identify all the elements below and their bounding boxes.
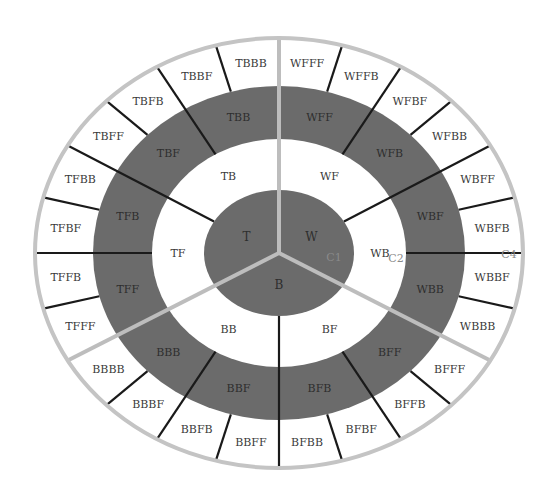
sector-label-bfbf: BFBF <box>346 423 378 436</box>
sector-label-wbff: WBFF <box>460 173 495 186</box>
sector-label-bbbf: BBBF <box>132 398 164 411</box>
sector-label-tff: TFF <box>117 283 140 296</box>
sector-label-wbfb: WBFB <box>475 222 510 235</box>
sector-label-bb: BB <box>220 323 236 336</box>
sector-label-bf: BF <box>322 323 338 336</box>
sector-label-t: T <box>243 230 251 244</box>
sector-label-wfff: WFFF <box>290 57 325 70</box>
sector-label-bbfb: BBFB <box>181 423 213 436</box>
connector-label-c1: C1 <box>326 251 341 264</box>
sector-label-bff: BFF <box>378 346 402 359</box>
sector-label-tb: TB <box>221 170 236 183</box>
sector-label-bbb: BBB <box>156 346 180 359</box>
sector-label-bbbb: BBBB <box>92 363 124 376</box>
sector-label-tbbf: TBBF <box>181 70 213 83</box>
connector-label-c2: C2 <box>388 252 403 265</box>
sector-label-bfff: BFFF <box>434 363 465 376</box>
sector-label-tbf: TBF <box>157 147 180 160</box>
sector-label-tbbb: TBBB <box>235 57 267 70</box>
sector-label-wb: WB <box>370 247 389 260</box>
sector-label-tfbb: TFBB <box>65 173 96 186</box>
sector-label-wbbf: WBBF <box>475 271 510 284</box>
sector-label-bffb: BFFB <box>394 398 425 411</box>
sector-label-tbb: TBB <box>227 111 251 124</box>
sector-label-wff: WFF <box>306 111 333 124</box>
connector-label-c4: C4 <box>501 248 516 261</box>
sector-label-wfb: WFB <box>376 147 403 160</box>
sector-label-tfb: TFB <box>116 210 139 223</box>
sector-label-bbff: BBFF <box>235 436 267 449</box>
sector-label-wf: WF <box>320 170 339 183</box>
sector-label-bfb: BFB <box>308 382 332 395</box>
sector-label-wfbb: WFBB <box>432 130 467 143</box>
sector-label-w: W <box>305 230 318 244</box>
sector-label-wbbb: WBBB <box>460 320 496 333</box>
sector-label-tfbf: TFBF <box>50 222 81 235</box>
sector-label-wfbf: WFBF <box>393 95 428 108</box>
sector-label-wbf: WBF <box>417 210 444 223</box>
sector-label-bfbb: BFBB <box>291 436 323 449</box>
sector-label-tffb: TFFB <box>50 271 81 284</box>
sector-label-wffb: WFFB <box>344 70 379 83</box>
sector-label-tbff: TBFF <box>93 130 124 143</box>
sector-label-bbf: BBF <box>227 382 251 395</box>
sector-label-tf: TF <box>171 247 186 260</box>
nested-sector-diagram: TWBTBTFWFWBBBBFTBBTBFTFBTFFWFFWFBWBFWBBB… <box>0 0 550 496</box>
sector-label-b: B <box>275 278 284 292</box>
sector-label-wbb: WBB <box>416 283 443 296</box>
sector-label-tbfb: TBFB <box>133 95 164 108</box>
sector-label-tfff: TFFF <box>65 320 96 333</box>
